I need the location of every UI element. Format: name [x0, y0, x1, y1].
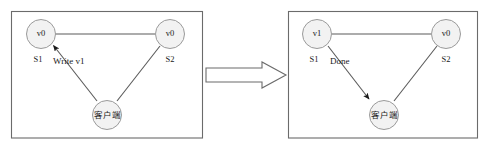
- diagram-root: v0 S1 v0 S2 客户端 Write v1: [0, 0, 489, 151]
- node-after-client-value: 客户端: [371, 110, 398, 120]
- edge-label-done: Done: [330, 56, 350, 66]
- diagram-canvas: v0 S1 v0 S2 客户端 Write v1: [0, 0, 489, 151]
- node-after-s1-value: v1: [313, 28, 322, 38]
- panel-after: v1 S1 v0 S2 客户端 Done: [289, 12, 478, 139]
- node-before-s1-value: v0: [37, 28, 46, 38]
- edge-label-write-v1: Write v1: [53, 56, 84, 66]
- node-before-client-value: 客户端: [94, 110, 121, 120]
- node-after-s2-value: v0: [442, 28, 451, 38]
- node-before-s1-name: S1: [34, 54, 43, 64]
- transition-block-arrow: [206, 62, 286, 88]
- right-block-arrow-icon: [206, 62, 286, 88]
- panel-before: v0 S1 v0 S2 客户端 Write v1: [12, 12, 203, 139]
- node-after-client: 客户端: [370, 101, 399, 130]
- node-before-s2-value: v0: [166, 28, 175, 38]
- node-before-s2-name: S2: [166, 54, 175, 64]
- node-after-s1-name: S1: [310, 54, 319, 64]
- node-before-client: 客户端: [93, 101, 122, 130]
- node-after-s2-name: S2: [442, 54, 451, 64]
